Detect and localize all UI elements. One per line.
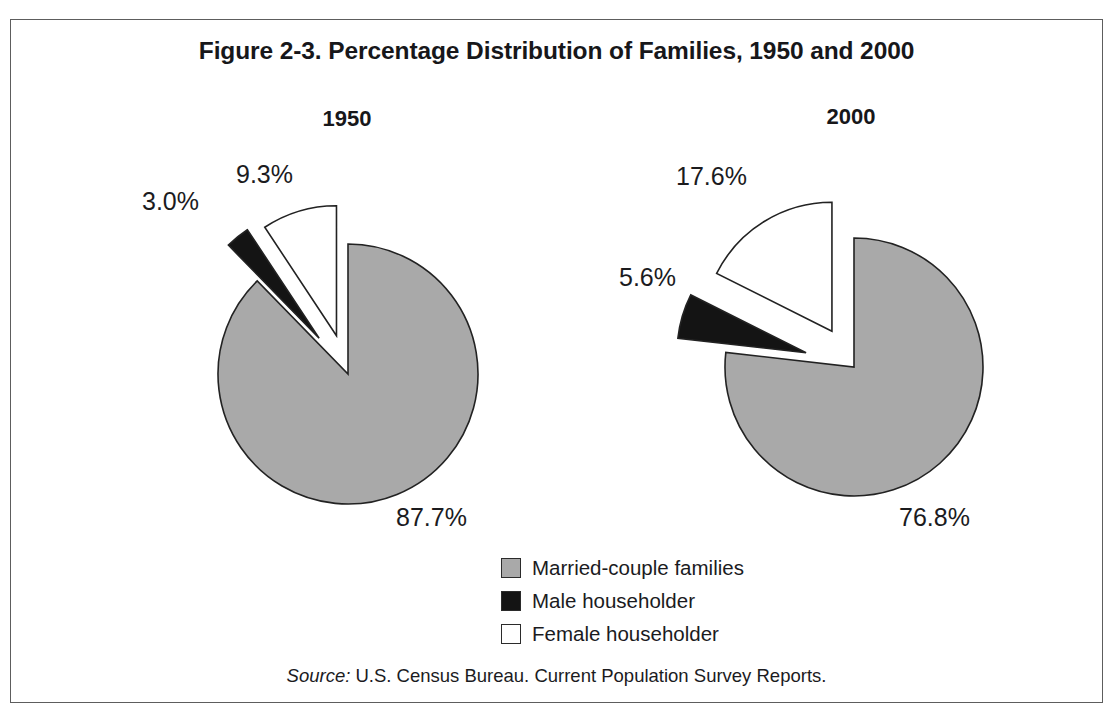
slice-label-2000-female: 17.6% [676,162,747,191]
legend-item-married: Married-couple families [501,551,744,584]
legend-label-female: Female householder [532,622,719,646]
pie-chart-2000 [678,202,983,496]
slice-label-1950-female: 9.3% [236,160,293,189]
pie-slice-1950-marriedcouple [218,244,478,504]
pie-slice-2000-female [717,202,832,331]
legend-label-married: Married-couple families [532,556,744,580]
source-note: Source: U.S. Census Bureau. Current Popu… [11,665,1102,687]
slice-label-1950-married: 87.7% [396,503,467,532]
legend-item-female: Female householder [501,617,744,650]
slice-label-2000-male: 5.6% [619,263,676,292]
slice-label-2000-married: 76.8% [899,503,970,532]
black-swatch-icon [501,591,521,611]
slice-label-1950-male: 3.0% [142,187,199,216]
legend: Married-couple families Male householder… [501,551,744,650]
figure-frame: Figure 2-3. Percentage Distribution of F… [10,19,1103,703]
legend-item-male: Male householder [501,584,744,617]
source-text: U.S. Census Bureau. Current Population S… [355,665,826,686]
gray-swatch-icon [501,558,521,578]
pie-chart-1950 [218,206,478,504]
legend-label-male: Male householder [532,589,695,613]
source-prefix: Source: [287,665,351,686]
white-swatch-icon [501,624,521,644]
